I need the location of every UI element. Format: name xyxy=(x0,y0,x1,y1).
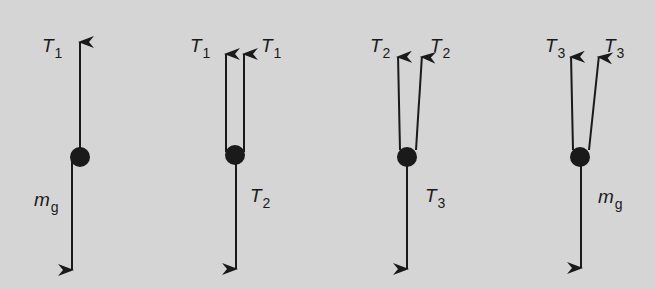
free-body-3-up-arrow-1 xyxy=(398,57,400,150)
free-body-3-up-label-1: T2 xyxy=(370,36,390,55)
symbol: T xyxy=(425,185,437,206)
symbol: T xyxy=(250,185,262,206)
free-body-4-up-label-1: T3 xyxy=(545,36,565,55)
free-body-2-down-label: T2 xyxy=(250,186,270,205)
symbol: m xyxy=(598,186,614,207)
symbol: m xyxy=(34,189,50,210)
subscript: 2 xyxy=(443,45,451,61)
subscript: 3 xyxy=(617,45,625,61)
free-body-3-up-arrow-2 xyxy=(416,57,422,150)
symbol: T xyxy=(190,35,202,56)
subscript: 3 xyxy=(438,195,446,211)
free-body-2-mass-dot xyxy=(225,145,245,165)
symbol: T xyxy=(430,35,442,56)
subscript: 3 xyxy=(558,45,566,61)
symbol: T xyxy=(604,35,616,56)
free-body-4-down-label: mg xyxy=(598,187,623,206)
free-body-3-down-label: T3 xyxy=(425,186,445,205)
free-body-3-up-label-2: T2 xyxy=(430,36,450,55)
free-body-4-mass-dot xyxy=(570,147,590,167)
symbol: T xyxy=(545,35,557,56)
free-body-4-up-arrow-2 xyxy=(589,57,599,150)
subscript: 1 xyxy=(203,45,211,61)
free-body-diagrams: T1mgT1T1T2T2T2T3T3T3mg xyxy=(0,0,655,289)
subscript: g xyxy=(615,196,623,212)
free-body-4-up-arrow-1 xyxy=(571,57,573,150)
free-body-3-mass-dot xyxy=(397,147,417,167)
free-body-1-mass-dot xyxy=(70,147,90,167)
free-body-2-up-label-2: T1 xyxy=(261,36,281,55)
free-body-2-up-label-1: T1 xyxy=(190,36,210,55)
subscript: 2 xyxy=(383,45,391,61)
symbol: T xyxy=(370,35,382,56)
subscript: g xyxy=(51,199,59,215)
subscript: 1 xyxy=(55,45,63,61)
subscript: 2 xyxy=(263,195,271,211)
free-body-4-up-label-2: T3 xyxy=(604,36,624,55)
symbol: T xyxy=(261,35,273,56)
free-body-1-down-label: mg xyxy=(34,190,59,209)
subscript: 1 xyxy=(274,45,282,61)
symbol: T xyxy=(42,35,54,56)
free-body-1-up-label-1: T1 xyxy=(42,36,62,55)
